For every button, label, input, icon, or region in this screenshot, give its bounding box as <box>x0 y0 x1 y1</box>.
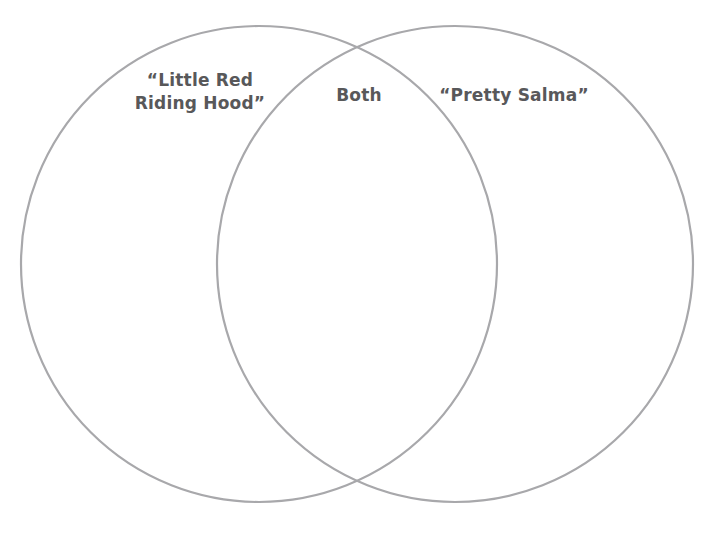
right-set-label: “Pretty Salma” <box>434 84 594 107</box>
left-set-label: “Little Red Riding Hood” <box>100 69 300 115</box>
intersection-label: Both <box>309 84 409 107</box>
venn-diagram-canvas: “Little Red Riding Hood” Both “Pretty Sa… <box>0 0 715 538</box>
